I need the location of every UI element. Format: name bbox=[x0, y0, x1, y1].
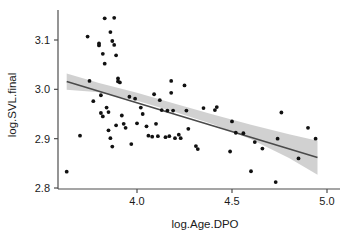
data-point bbox=[173, 136, 177, 140]
data-point bbox=[230, 120, 234, 124]
data-point bbox=[99, 93, 103, 97]
data-point bbox=[109, 30, 113, 34]
data-point bbox=[177, 133, 181, 137]
data-point bbox=[145, 124, 149, 128]
data-point bbox=[120, 114, 124, 118]
y-tick-label: 2.9 bbox=[35, 133, 50, 145]
data-point bbox=[110, 145, 114, 149]
data-point bbox=[107, 110, 111, 114]
data-point bbox=[114, 123, 118, 127]
data-point bbox=[280, 111, 284, 115]
x-axis-title: log.Age.DPO bbox=[171, 218, 238, 230]
data-point bbox=[101, 52, 105, 56]
data-point bbox=[124, 126, 128, 130]
data-point bbox=[78, 134, 82, 138]
data-point bbox=[135, 121, 139, 125]
data-point bbox=[139, 106, 143, 110]
y-axis-ticks: 2.82.93.03.1 bbox=[35, 34, 58, 194]
data-point bbox=[154, 122, 158, 126]
data-point bbox=[65, 170, 69, 174]
regression-line-group bbox=[67, 81, 318, 157]
data-point bbox=[164, 135, 168, 139]
data-point bbox=[112, 43, 116, 47]
x-tick-label: 4.5 bbox=[224, 195, 239, 207]
data-point bbox=[103, 62, 107, 66]
data-point bbox=[249, 169, 253, 173]
data-point bbox=[158, 98, 162, 102]
data-point bbox=[228, 150, 232, 154]
data-point bbox=[297, 157, 301, 161]
data-point bbox=[110, 39, 114, 43]
y-tick-label: 3.0 bbox=[35, 83, 50, 95]
confidence-band-group bbox=[67, 74, 318, 175]
data-point bbox=[86, 35, 90, 39]
data-point bbox=[147, 134, 151, 138]
data-point bbox=[306, 126, 310, 130]
scatter-plot-figure: 4.04.55.0 2.82.93.03.1 log.Age.DPO log.S… bbox=[0, 0, 351, 238]
data-point bbox=[215, 105, 219, 109]
data-points-group bbox=[65, 16, 318, 184]
data-point bbox=[234, 131, 238, 135]
data-point bbox=[103, 16, 107, 20]
data-point bbox=[185, 109, 189, 113]
data-point bbox=[167, 134, 171, 138]
regression-line bbox=[67, 81, 318, 157]
data-point bbox=[314, 137, 318, 141]
y-tick-label: 3.1 bbox=[35, 34, 50, 46]
data-point bbox=[91, 99, 95, 103]
data-point bbox=[183, 83, 187, 87]
data-point bbox=[118, 81, 122, 85]
x-axis-ticks: 4.04.55.0 bbox=[129, 189, 334, 207]
data-point bbox=[196, 147, 200, 151]
data-point bbox=[171, 109, 175, 113]
data-point bbox=[114, 53, 118, 57]
data-point bbox=[97, 42, 101, 46]
data-point bbox=[152, 92, 156, 96]
data-point bbox=[274, 180, 278, 184]
data-point bbox=[253, 140, 257, 144]
data-point bbox=[242, 131, 246, 135]
data-point bbox=[169, 91, 173, 95]
data-point bbox=[88, 79, 92, 83]
data-point bbox=[276, 137, 280, 141]
data-point bbox=[107, 128, 111, 132]
data-point bbox=[150, 135, 154, 139]
y-axis-title: log.SVL.final bbox=[6, 73, 18, 138]
data-point bbox=[101, 115, 105, 119]
x-tick-label: 4.0 bbox=[129, 195, 144, 207]
data-point bbox=[169, 79, 173, 83]
data-point bbox=[202, 106, 206, 110]
data-point bbox=[261, 147, 265, 151]
x-tick-label: 5.0 bbox=[319, 195, 334, 207]
data-point bbox=[129, 142, 133, 146]
data-point bbox=[112, 16, 116, 20]
data-point bbox=[179, 136, 183, 140]
plot-canvas: 4.04.55.0 2.82.93.03.1 log.Age.DPO log.S… bbox=[0, 0, 351, 238]
data-point bbox=[141, 112, 145, 116]
y-tick-label: 2.8 bbox=[35, 182, 50, 194]
data-point bbox=[160, 108, 164, 112]
data-point bbox=[166, 109, 170, 113]
data-point bbox=[133, 97, 137, 101]
data-point bbox=[122, 122, 126, 126]
data-point bbox=[99, 111, 103, 115]
data-point bbox=[109, 136, 113, 140]
data-point bbox=[156, 134, 160, 138]
data-point bbox=[105, 106, 109, 110]
data-point bbox=[186, 127, 190, 131]
data-point bbox=[127, 95, 131, 99]
confidence-band bbox=[67, 74, 318, 175]
